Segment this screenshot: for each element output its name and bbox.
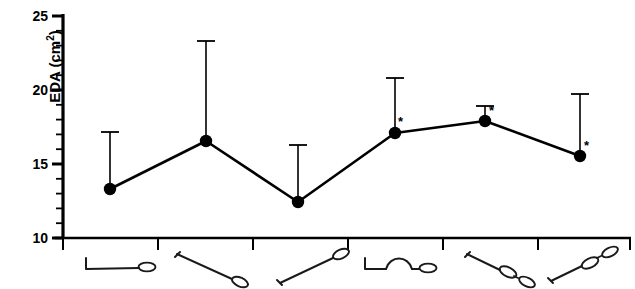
error-bars bbox=[101, 41, 589, 202]
y-major-ticks bbox=[52, 16, 63, 238]
plot-area: * * * bbox=[0, 0, 635, 289]
x-axis-icon-1-flat-line-with-oval bbox=[86, 258, 156, 271]
x-axis-icon-2-steep-descending-line-with-oval bbox=[175, 252, 250, 289]
x-axis-icon-3-ascending-line-with-oval bbox=[277, 247, 351, 285]
data-point-1 bbox=[104, 183, 116, 195]
data-point-3 bbox=[292, 196, 304, 208]
significance-mark-4: * bbox=[398, 114, 404, 129]
x-axis-icon-6-ascending-line-with-two-ovals bbox=[548, 244, 620, 283]
data-series-line bbox=[110, 121, 580, 202]
x-axis-icon-5-descending-line-with-two-ovals bbox=[465, 252, 537, 289]
significance-mark-5: * bbox=[489, 103, 495, 118]
series-EDA-line bbox=[110, 121, 580, 202]
x-axis-icon-4-flat-line-with-arc-and-oval bbox=[365, 258, 437, 272]
chart-figure: EDA (cm2) 25 20 15 10 bbox=[0, 0, 635, 289]
data-markers bbox=[104, 115, 586, 208]
data-point-2 bbox=[200, 135, 212, 147]
significance-mark-6: * bbox=[584, 138, 590, 153]
axes-group bbox=[55, 14, 631, 239]
x-axis-icon-group bbox=[86, 244, 620, 289]
